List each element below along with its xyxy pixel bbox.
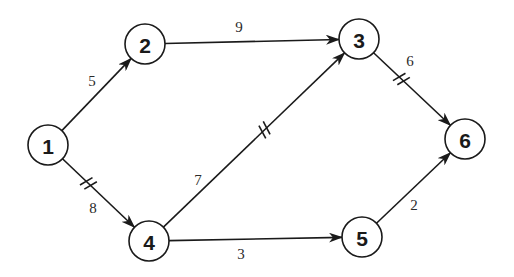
network-diagram: 5897362 123456 [0,0,514,277]
node-2: 2 [125,24,165,64]
node-label: 5 [356,227,368,250]
edge-weight-label: 5 [88,73,96,89]
nodes-layer: 123456 [28,19,485,261]
edge-2-3: 9 [165,19,339,44]
node-4: 4 [129,221,169,261]
node-label: 6 [459,129,471,152]
critical-path-mark [80,178,93,185]
node-1: 1 [28,125,68,165]
edge-weight-label: 2 [410,197,418,213]
node-label: 2 [139,34,151,57]
node-3: 3 [339,19,379,59]
edge-arrow [165,39,339,43]
node-6: 6 [445,119,485,159]
edge-4-3: 7 [163,53,344,227]
critical-path-mark [263,121,270,134]
edge-weight-label: 9 [235,19,243,35]
edge-weight-label: 6 [406,53,414,69]
critical-path-mark [259,126,266,139]
node-label: 3 [353,29,365,52]
edge-1-2: 5 [62,58,131,130]
node-5: 5 [342,217,382,257]
edge-5-6: 2 [376,153,450,223]
edge-weight-label: 8 [89,200,97,216]
edge-arrow [163,53,344,227]
edge-arrow [62,58,131,130]
node-label: 4 [143,231,155,254]
edges-layer: 5897362 [62,19,451,262]
edge-1-4: 8 [62,159,134,227]
critical-path-mark [397,77,410,84]
edge-4-5: 3 [169,237,342,262]
critical-path-mark [84,182,97,189]
node-label: 1 [42,135,54,158]
edge-3-6: 6 [374,53,451,126]
critical-path-mark [393,73,406,80]
edge-weight-label: 7 [194,172,202,188]
edge-arrow [62,159,134,227]
edge-weight-label: 3 [237,246,245,262]
edge-arrow [169,237,342,240]
